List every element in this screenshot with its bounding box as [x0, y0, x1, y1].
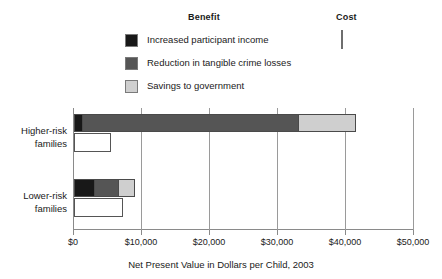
legend-item-income: Increased participant income [125, 33, 268, 47]
chart-legend: Benefit Cost Increased participant incom… [0, 0, 442, 96]
category-label-higher-risk: Higher-risk families [1, 125, 67, 150]
x-tick-label-20000: $20,000 [193, 237, 226, 247]
legend-heading-benefit: Benefit [188, 12, 220, 22]
x-axis-line [73, 229, 413, 230]
tick-mark-0 [73, 230, 74, 235]
x-tick-label-0: $0 [68, 237, 78, 247]
category-label-lower-risk-line1: Lower-risk [1, 190, 67, 203]
bar-benefit-lower-risk [74, 179, 135, 197]
legend-swatch-income [125, 34, 138, 47]
legend-swatch-savings [125, 80, 138, 93]
category-label-lower-risk: Lower-risk families [1, 190, 67, 215]
category-label-lower-risk-line2: families [1, 203, 67, 216]
bar-benefit-lower-risk-segment-savings-to-government [118, 179, 135, 197]
legend-item-crime: Reduction in tangible crime losses [125, 56, 291, 70]
legend-label-savings: Savings to government [147, 80, 244, 92]
bar-cost-higher-risk [74, 133, 111, 152]
x-tick-label-40000: $40,000 [329, 237, 362, 247]
legend-item-savings: Savings to government [125, 79, 244, 93]
bar-benefit-lower-risk-segment-increased-participant-income [74, 179, 95, 197]
bar-benefit-higher-risk-segment-reduction-in-tangible-crime-losses [82, 114, 299, 132]
tick-mark-50000 [413, 230, 414, 235]
legend-heading-cost: Cost [336, 12, 357, 22]
tick-mark-40000 [345, 230, 346, 235]
x-tick-label-30000: $30,000 [261, 237, 294, 247]
x-axis-title: Net Present Value in Dollars per Child, … [0, 259, 442, 270]
legend-item-cost [341, 31, 343, 49]
bar-cost-lower-risk [74, 198, 123, 217]
legend-label-crime: Reduction in tangible crime losses [147, 57, 291, 69]
tick-mark-20000 [209, 230, 210, 235]
x-tick-label-50000: $50,000 [397, 237, 430, 247]
gridline-50000 [413, 108, 414, 230]
legend-swatch-crime [125, 57, 138, 70]
category-label-higher-risk-line1: Higher-risk [1, 125, 67, 138]
plot-area [73, 108, 413, 230]
legend-label-income: Increased participant income [147, 34, 268, 46]
x-tick-label-10000: $10,000 [125, 237, 158, 247]
tick-mark-10000 [141, 230, 142, 235]
legend-swatch-cost [341, 30, 343, 49]
tick-mark-30000 [277, 230, 278, 235]
bar-benefit-lower-risk-segment-reduction-in-tangible-crime-losses [94, 179, 119, 197]
bar-benefit-higher-risk [74, 114, 356, 132]
category-label-higher-risk-line2: families [1, 138, 67, 151]
bar-benefit-higher-risk-segment-savings-to-government [298, 114, 356, 132]
